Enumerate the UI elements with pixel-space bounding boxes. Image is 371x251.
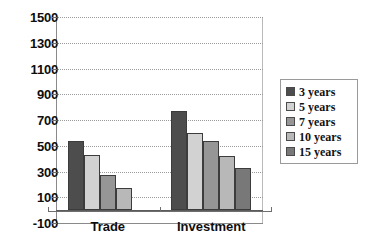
legend-item-label: 7 years (299, 116, 335, 128)
legend-item-label: 15 years (299, 146, 341, 158)
y-tick-label: 100 (4, 191, 58, 204)
y-tick-mark (52, 223, 57, 224)
y-tick-label: 1100 (4, 63, 58, 76)
bar[interactable] (219, 156, 235, 210)
x-tick-mark (160, 207, 161, 212)
legend-item-label: 3 years (299, 86, 335, 98)
legend-item-label: 10 years (299, 131, 341, 143)
bar[interactable] (84, 155, 100, 210)
legend-swatch-icon (286, 147, 295, 156)
bar-chart: 150013001100900700500300100-100 TradeInv… (0, 0, 371, 251)
legend-swatch-icon (286, 132, 295, 141)
bars-layer (56, 17, 263, 223)
y-tick-label: 700 (4, 114, 58, 127)
y-tick-label: 900 (4, 88, 58, 101)
bar[interactable] (68, 141, 84, 211)
bar[interactable] (235, 168, 251, 210)
bar[interactable] (203, 141, 219, 211)
x-tick-mark (48, 207, 49, 212)
y-tick-label: 500 (4, 140, 58, 153)
bar[interactable] (100, 175, 116, 210)
legend-item[interactable]: 5 years (286, 99, 353, 114)
y-tick-label: 300 (4, 166, 58, 179)
legend-item[interactable]: 15 years (286, 144, 353, 159)
x-axis-label-trade: Trade (58, 220, 158, 233)
legend-swatch-icon (286, 102, 295, 111)
y-tick-label: 1500 (4, 11, 58, 24)
legend-item[interactable]: 3 years (286, 84, 353, 99)
bar[interactable] (187, 133, 203, 210)
legend: 3 years5 years7 years10 years15 years (280, 79, 358, 164)
legend-swatch-icon (286, 117, 295, 126)
bar[interactable] (116, 188, 132, 210)
legend-swatch-icon (286, 87, 295, 96)
bar[interactable] (171, 111, 187, 210)
legend-item[interactable]: 7 years (286, 114, 353, 129)
legend-item[interactable]: 10 years (286, 129, 353, 144)
y-tick-label: 1300 (4, 37, 58, 50)
x-axis-label-investment: Investment (161, 220, 261, 233)
y-tick-label: -100 (4, 217, 58, 230)
legend-item-label: 5 years (299, 101, 335, 113)
x-tick-mark (271, 207, 272, 212)
